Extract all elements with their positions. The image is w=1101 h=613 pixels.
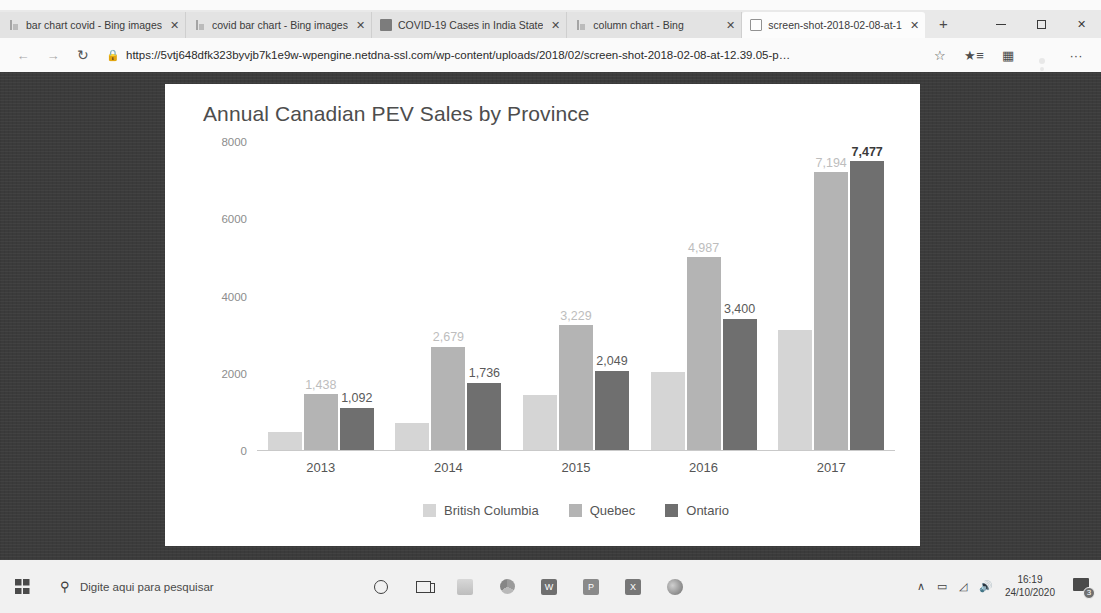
chart-image: Annual Canadian PEV Sales by Province 02… bbox=[165, 84, 920, 546]
search-icon: ⚲ bbox=[60, 579, 70, 594]
window-close-button[interactable]: ✕ bbox=[1061, 10, 1101, 38]
task-view-icon[interactable] bbox=[412, 576, 434, 598]
x-tick-label: 2013 bbox=[266, 460, 376, 475]
edge-icon[interactable] bbox=[664, 576, 686, 598]
chevron-up-icon[interactable]: ∧ bbox=[917, 580, 925, 593]
bar-value-label: 1,438 bbox=[305, 379, 336, 392]
bar-ontario-2016: 3,400 bbox=[723, 319, 757, 450]
legend-swatch bbox=[423, 504, 436, 517]
bar-groups: 1,4381,0922,6791,7363,2292,0494,9873,400… bbox=[257, 142, 895, 450]
word-icon[interactable]: W bbox=[538, 576, 560, 598]
x-axis-labels: 20132014201520162017 bbox=[257, 457, 895, 477]
bar-quebec-2013: 1,438 bbox=[304, 394, 338, 450]
maximize-button[interactable] bbox=[1021, 10, 1061, 38]
taskbar-icons: W P X bbox=[370, 576, 686, 598]
bar-value-label: 2,679 bbox=[433, 331, 464, 344]
close-icon[interactable]: ✕ bbox=[551, 20, 560, 31]
y-tick-label: 6000 bbox=[221, 213, 247, 225]
bar-british-columbia-2014 bbox=[395, 423, 429, 450]
url-scheme-host: https://5vtj648dfk323byvjb7k1e9w-wpengin… bbox=[126, 49, 790, 61]
clock-time: 16:19 bbox=[1005, 574, 1055, 587]
file-explorer-icon[interactable] bbox=[454, 576, 476, 598]
volume-icon[interactable]: 🔊 bbox=[979, 580, 993, 593]
powerpoint-icon[interactable]: P bbox=[580, 576, 602, 598]
bar-value-label: 1,092 bbox=[341, 392, 372, 405]
legend-item: Ontario bbox=[665, 503, 729, 518]
search-placeholder: Digite aqui para pesquisar bbox=[80, 581, 214, 593]
close-icon[interactable]: ✕ bbox=[356, 20, 365, 31]
bar-value-label: 7,477 bbox=[852, 146, 883, 159]
windows-start-icon[interactable] bbox=[0, 567, 44, 607]
legend-item: Quebec bbox=[569, 503, 636, 518]
image-viewer[interactable]: Annual Canadian PEV Sales by Province 02… bbox=[0, 72, 1101, 560]
url-text: https://5vtj648dfk323byvjb7k1e9w-wpengin… bbox=[126, 49, 790, 61]
y-axis-labels: 02000400060008000 bbox=[195, 142, 253, 487]
collections-icon[interactable]: ▦ bbox=[991, 48, 1025, 63]
bing-icon bbox=[575, 19, 587, 31]
chart-axis-area: 1,4381,0922,6791,7363,2292,0494,9873,400… bbox=[257, 142, 895, 487]
bar-value-label: 4,987 bbox=[688, 242, 719, 255]
tab-label: COVID-19 Cases in India State bbox=[398, 19, 543, 31]
close-icon[interactable]: ✕ bbox=[170, 20, 179, 31]
chart-legend: British ColumbiaQuebecOntario bbox=[257, 499, 895, 521]
back-button[interactable]: ← bbox=[8, 48, 38, 63]
chart-title: Annual Canadian PEV Sales by Province bbox=[203, 102, 590, 126]
search-input[interactable]: ⚲ Digite aqui para pesquisar bbox=[44, 570, 344, 604]
close-icon[interactable]: ✕ bbox=[726, 20, 735, 31]
bar-quebec-2016: 4,987 bbox=[687, 257, 721, 450]
refresh-icon[interactable]: ↻ bbox=[68, 47, 98, 63]
system-tray: ∧ ▭ ◿ 🔊 16:19 24/10/2020 3 bbox=[917, 574, 1101, 599]
url-input[interactable]: 🔒 https://5vtj648dfk323byvjb7k1e9w-wpeng… bbox=[104, 43, 923, 67]
browser-tab-3[interactable]: COVID-19 Cases in India State ✕ bbox=[372, 12, 567, 38]
bar-quebec-2017: 7,194 bbox=[814, 172, 848, 450]
new-tab-button[interactable]: + bbox=[931, 15, 956, 34]
y-tick-label: 2000 bbox=[221, 368, 247, 380]
excel-icon[interactable]: X bbox=[622, 576, 644, 598]
favorites-list-icon[interactable]: ★≡ bbox=[957, 48, 991, 63]
bar-ontario-2015: 2,049 bbox=[595, 371, 629, 450]
forward-button[interactable]: → bbox=[38, 48, 68, 63]
lock-icon: 🔒 bbox=[104, 49, 122, 62]
legend-item: British Columbia bbox=[423, 503, 539, 518]
legend-label: Quebec bbox=[590, 503, 636, 518]
notification-count: 3 bbox=[1083, 587, 1095, 599]
address-bar: ← → ↻ 🔒 https://5vtj648dfk323byvjb7k1e9w… bbox=[0, 38, 1101, 72]
notification-icon[interactable]: 3 bbox=[1073, 578, 1093, 596]
bar-value-label: 7,194 bbox=[816, 157, 847, 170]
document-icon bbox=[750, 19, 762, 31]
minimize-button[interactable] bbox=[981, 10, 1021, 38]
browser-tab-4[interactable]: column chart - Bing ✕ bbox=[567, 12, 742, 38]
x-tick-label: 2017 bbox=[776, 460, 886, 475]
bar-british-columbia-2015 bbox=[523, 395, 557, 450]
bar-quebec-2014: 2,679 bbox=[431, 347, 465, 450]
bar-british-columbia-2016 bbox=[651, 372, 685, 450]
browser-chrome: bar chart covid - Bing images ✕ covid ba… bbox=[0, 0, 1101, 72]
browser-tab-2[interactable]: covid bar chart - Bing images ✕ bbox=[186, 12, 372, 38]
bar-group: 7,1947,477 bbox=[778, 142, 884, 450]
bar-ontario-2017: 7,477 bbox=[850, 161, 884, 450]
tab-label: column chart - Bing bbox=[593, 19, 683, 31]
network-icon[interactable]: ▭ bbox=[937, 580, 947, 593]
more-settings-icon[interactable]: ··· bbox=[1059, 48, 1093, 63]
tab-label: covid bar chart - Bing images bbox=[212, 19, 348, 31]
browser-tab-1[interactable]: bar chart covid - Bing images ✕ bbox=[0, 12, 186, 38]
x-tick-label: 2014 bbox=[393, 460, 503, 475]
close-icon[interactable]: ✕ bbox=[910, 20, 919, 31]
window-controls: ✕ bbox=[981, 10, 1101, 38]
clock[interactable]: 16:19 24/10/2020 bbox=[1005, 574, 1055, 599]
legend-swatch bbox=[665, 504, 678, 517]
chart-plot-area: 02000400060008000 1,4381,0922,6791,7363,… bbox=[195, 142, 895, 487]
browser-tab-5-active[interactable]: screen-shot-2018-02-08-at-1 ✕ bbox=[742, 12, 925, 38]
bar-value-label: 2,049 bbox=[596, 355, 627, 368]
chrome-icon[interactable] bbox=[496, 576, 518, 598]
cortana-icon[interactable] bbox=[370, 576, 392, 598]
wifi-icon[interactable]: ◿ bbox=[959, 580, 967, 593]
legend-label: British Columbia bbox=[444, 503, 539, 518]
bar-value-label: 3,229 bbox=[560, 310, 591, 323]
legend-swatch bbox=[569, 504, 582, 517]
tab-label: bar chart covid - Bing images bbox=[26, 19, 162, 31]
bar-british-columbia-2013 bbox=[268, 432, 302, 450]
bing-icon bbox=[194, 19, 206, 31]
y-tick-label: 0 bbox=[241, 445, 247, 457]
favorite-star-icon[interactable]: ☆ bbox=[923, 48, 957, 63]
